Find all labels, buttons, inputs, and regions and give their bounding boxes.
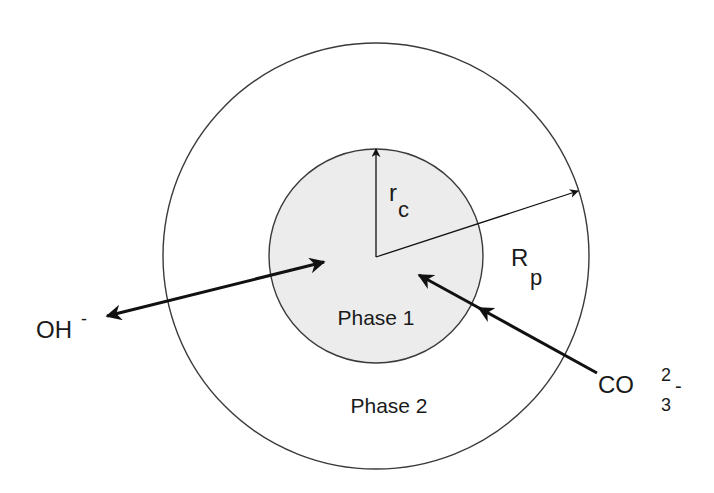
carbonate-label: CO: [598, 371, 634, 398]
shrinking-core-diagram: r c R p Phase 1 Phase 2 OH - CO 2 3 -: [0, 0, 714, 493]
particle-radius-label: R: [511, 244, 528, 271]
carbonate-charge: -: [675, 375, 682, 397]
particle-radius-subscript: p: [530, 265, 542, 290]
phase-2-label: Phase 2: [350, 394, 427, 417]
hydroxide-label: OH: [36, 316, 72, 343]
carbonate-superscript: 2: [661, 365, 671, 385]
core-radius-label: r: [389, 179, 397, 206]
hydroxide-charge: -: [81, 309, 87, 329]
carbonate-subscript: 3: [661, 395, 671, 415]
core-radius-subscript: c: [398, 197, 409, 222]
phase-1-label: Phase 1: [337, 306, 414, 329]
